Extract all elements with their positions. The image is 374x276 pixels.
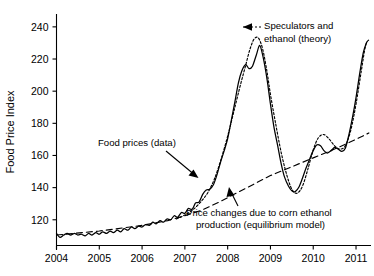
annotation-equilibrium-line1: Price changes due to corn ethanol (186, 207, 332, 218)
annotation-equilibrium-line2: production (equilibrium model) (196, 219, 325, 230)
y-tick-label: 140 (31, 181, 49, 193)
y-tick-label: 200 (31, 85, 49, 97)
y-axis: 120140160180200220240 (31, 14, 57, 250)
annotation-food-prices: Food prices (data) (98, 137, 199, 178)
y-tick-labels: 120140160180200220240 (31, 21, 49, 226)
annotation-equilibrium-arrowhead (227, 187, 235, 197)
y-tick-label: 180 (31, 117, 49, 129)
x-tick-label: 2007 (173, 252, 197, 264)
y-tick-label: 220 (31, 53, 49, 65)
y-tick-label: 240 (31, 21, 49, 33)
x-tick-label: 2005 (88, 252, 112, 264)
y-tick-marks (53, 27, 57, 220)
x-tick-labels: 20042005200620072008200920102011 (45, 252, 368, 264)
x-tick-label: 2008 (216, 252, 240, 264)
x-tick-marks (57, 246, 357, 250)
annotation-speculators: Speculators and ethanol (theory) (243, 20, 333, 44)
annotation-speculators-line2: ethanol (theory) (264, 33, 331, 44)
food-price-index-chart: 120140160180200220240 200420052006200720… (0, 0, 374, 276)
y-tick-label: 120 (31, 214, 49, 226)
annotation-speculators-line1: Speculators and (264, 20, 333, 31)
x-tick-label: 2004 (45, 252, 69, 264)
x-axis: 20042005200620072008200920102011 (45, 246, 371, 264)
annotation-food-prices-label: Food prices (data) (98, 137, 176, 148)
x-tick-label: 2011 (345, 252, 368, 264)
chart-canvas: 120140160180200220240 200420052006200720… (0, 0, 374, 276)
x-tick-label: 2010 (302, 252, 326, 264)
x-tick-label: 2009 (259, 252, 283, 264)
y-axis-title: Food Price Index (4, 90, 16, 174)
y-tick-label: 160 (31, 149, 49, 161)
x-tick-label: 2006 (130, 252, 154, 264)
annotation-speculators-arrowhead (243, 23, 252, 31)
